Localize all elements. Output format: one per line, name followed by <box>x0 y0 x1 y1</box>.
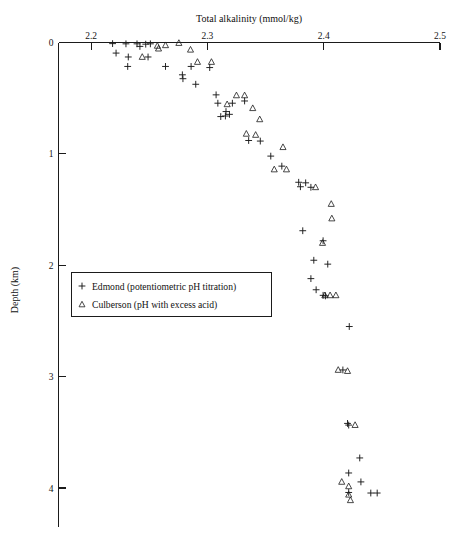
data-point-triangle <box>194 59 200 65</box>
data-point-triangle <box>243 131 249 137</box>
x-tick-label: 2.3 <box>201 31 213 41</box>
data-point-plus <box>344 420 351 427</box>
data-point-triangle <box>328 201 334 207</box>
y-axis-title: Depth (km) <box>9 267 21 313</box>
data-point-plus <box>324 261 331 268</box>
data-point-triangle <box>283 166 289 172</box>
data-point-plus <box>217 113 224 120</box>
data-point-triangle <box>271 166 277 172</box>
figure-container: 2.22.32.42.5 01234 Total alkalinity (mmo… <box>0 0 453 544</box>
data-point-plus <box>192 81 199 88</box>
data-point-plus <box>113 50 120 57</box>
data-point-triangle <box>233 92 239 98</box>
data-point-plus <box>374 490 381 497</box>
data-point-plus <box>125 54 132 61</box>
data-point-plus <box>214 100 221 107</box>
data-point-plus <box>180 75 187 82</box>
data-point-plus <box>162 63 169 70</box>
data-point-plus <box>307 275 314 282</box>
data-point-plus <box>147 40 154 47</box>
data-point-plus <box>346 323 353 330</box>
x-tick-label: 2.5 <box>434 31 446 41</box>
scatter-plot: 2.22.32.42.5 01234 Total alkalinity (mmo… <box>0 0 453 544</box>
data-point-plus <box>267 153 274 160</box>
data-point-plus <box>109 40 116 47</box>
legend-label-culberson: Culberson (pH with excess acid) <box>92 299 217 311</box>
data-point-triangle <box>187 46 193 52</box>
data-point-triangle <box>333 292 339 298</box>
y-tick-label: 4 <box>49 484 54 494</box>
data-point-triangle <box>327 292 333 298</box>
data-point-plus <box>313 286 320 293</box>
x-axis-title: Total alkalinity (mmol/kg) <box>196 13 302 25</box>
data-point-plus <box>123 40 130 47</box>
data-point-plus <box>213 91 220 98</box>
data-point-triangle <box>329 215 335 221</box>
legend-label-edmond: Edmond (potentiometric pH titration) <box>92 281 236 293</box>
y-tick-label: 1 <box>49 149 54 159</box>
data-point-plus <box>222 113 229 120</box>
data-point-plus <box>241 98 248 105</box>
data-point-plus <box>297 183 304 190</box>
data-point-triangle <box>339 479 345 485</box>
data-point-plus <box>345 470 352 477</box>
legend: Edmond (potentiometric pH titration) Cul… <box>72 273 272 317</box>
data-point-plus <box>310 257 317 264</box>
data-point-plus <box>245 137 252 144</box>
data-point-plus <box>358 478 365 485</box>
data-point-triangle <box>242 92 248 98</box>
data-point-triangle <box>250 105 256 111</box>
data-point-plus <box>299 227 306 234</box>
y-tick-label: 0 <box>49 38 54 48</box>
data-point-triangle <box>253 132 259 138</box>
series-edmond-points <box>109 40 380 496</box>
y-tick-label: 2 <box>49 261 54 271</box>
data-point-plus <box>124 63 131 70</box>
data-point-triangle <box>345 368 351 374</box>
data-point-plus <box>367 490 374 497</box>
data-point-triangle <box>257 116 263 122</box>
x-tick-label: 2.4 <box>318 31 330 41</box>
data-point-triangle <box>224 101 230 107</box>
data-point-plus <box>188 63 195 70</box>
data-point-plus <box>302 179 309 186</box>
data-point-plus <box>179 71 186 78</box>
data-point-triangle <box>208 59 214 65</box>
data-point-plus <box>295 179 302 186</box>
x-tick-label: 2.2 <box>85 31 97 41</box>
data-point-triangle <box>352 422 358 428</box>
data-point-plus <box>206 64 213 71</box>
data-point-triangle <box>280 144 286 150</box>
data-point-plus <box>345 489 352 496</box>
series-culberson-points <box>139 40 358 503</box>
data-point-plus <box>356 455 363 462</box>
y-tick-label: 3 <box>49 372 54 382</box>
data-point-triangle <box>347 497 353 503</box>
data-point-triangle <box>346 483 352 489</box>
data-point-triangle <box>139 54 145 60</box>
y-axis-ticks: 01234 <box>49 38 66 494</box>
data-point-plus <box>345 422 352 429</box>
data-point-plus <box>257 138 264 145</box>
data-point-plus <box>278 163 285 170</box>
